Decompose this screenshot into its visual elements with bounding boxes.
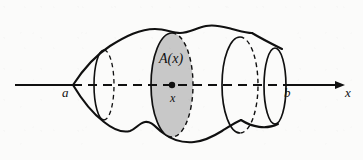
label-sample-point: x: [170, 92, 175, 104]
sample-point-dot: [169, 82, 175, 88]
label-b: b: [284, 86, 291, 99]
label-a: a: [62, 86, 69, 99]
solid-of-revolution-diagram: [0, 0, 363, 160]
end-cap-cross-section: [264, 48, 286, 124]
solid-right-cap-top: [252, 33, 282, 49]
end-cap-cross-section-edge: [264, 48, 286, 124]
figure-canvas: a b x A(x) x: [0, 0, 363, 160]
label-x-axis: x: [345, 86, 351, 99]
label-area-function: A(x): [159, 52, 183, 66]
x-axis-arrowhead: [335, 81, 345, 89]
